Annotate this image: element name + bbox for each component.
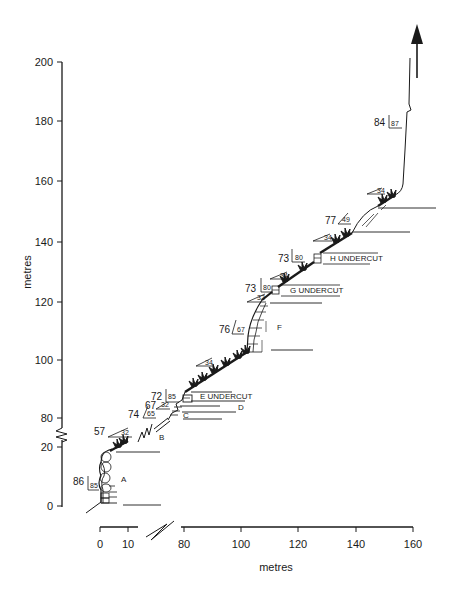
dip-65: 65: [147, 410, 155, 417]
strike-73-g: 73: [245, 283, 257, 294]
unit-label-h: H UNDERCUT: [330, 254, 383, 263]
attitude-symbols: 86 85 57 32 74 65 67 32 72 85 34 76 67 3…: [73, 115, 402, 490]
y-axis-label: metres: [21, 255, 33, 289]
y-tick-100: 100: [35, 354, 53, 366]
x-tick-120: 120: [289, 538, 307, 550]
dip-49: 49: [342, 216, 350, 223]
dip-87: 87: [391, 120, 399, 127]
vegetation-tuft-icon: [378, 194, 387, 203]
vegetation-tuft-icon: [241, 345, 250, 354]
dip-34-c: 34: [324, 234, 332, 241]
vegetation-tuft-icon: [387, 189, 396, 198]
x-tick-0: 0: [97, 538, 103, 550]
up-arrow-icon: [411, 24, 423, 78]
y-tick-180: 180: [35, 115, 53, 127]
y-axis: 200 180 160 140 120 100 80 20 0 metres: [21, 56, 67, 512]
unit-label-a: A: [121, 475, 127, 484]
unit-label-b: B: [159, 433, 164, 442]
x-tick-160: 160: [404, 538, 422, 550]
strike-73-h: 73: [278, 253, 290, 264]
y-tick-0: 0: [47, 500, 53, 512]
dip-34-b: 34: [280, 272, 288, 279]
vegetation-tuft-icon: [233, 350, 242, 359]
dip-32-c: 32: [257, 294, 265, 301]
x-tick-80: 80: [178, 538, 190, 550]
dip-85: 85: [90, 482, 98, 489]
y-tick-120: 120: [35, 296, 53, 308]
axis-break-icon: [56, 428, 67, 442]
dip-80-h: 80: [295, 254, 303, 261]
y-tick-160: 160: [35, 175, 53, 187]
strike-72: 72: [151, 391, 163, 402]
x-axis-label: metres: [259, 561, 293, 573]
y-tick-200: 200: [35, 56, 53, 68]
dip-32: 32: [121, 429, 129, 436]
dip-80-g: 80: [263, 284, 271, 291]
strike-84: 84: [374, 117, 386, 128]
x-tick-10: 10: [122, 538, 134, 550]
unit-label-d: D: [238, 403, 244, 412]
unit-label-c: C: [183, 411, 189, 420]
unit-label-g: G UNDERCUT: [290, 286, 343, 295]
vegetation-tuft-icon: [189, 378, 198, 387]
vegetation-tuft-icon: [298, 262, 307, 271]
vegetation-tuft-icon: [221, 357, 230, 366]
y-tick-20: 20: [41, 441, 53, 453]
unit-label-e: E UNDERCUT: [200, 392, 253, 401]
unit-label-f: F: [277, 323, 282, 332]
x-tick-100: 100: [232, 538, 250, 550]
cross-section-diagram: 200 180 160 140 120 100 80 20 0 metres 0…: [0, 0, 458, 591]
axis-break-icon: [146, 521, 174, 540]
y-tick-140: 140: [35, 236, 53, 248]
vegetation-tuft-icon: [331, 234, 340, 243]
dip-34-a: 34: [205, 359, 213, 366]
vegetation-tuft-icon: [198, 372, 207, 381]
dip-34-d: 34: [377, 187, 385, 194]
strike-76: 76: [219, 324, 231, 335]
vegetation-tuft-icon: [341, 228, 350, 237]
x-tick-140: 140: [347, 538, 365, 550]
y-tick-80: 80: [41, 412, 53, 424]
strike-86: 86: [73, 476, 85, 487]
dip-85-b: 85: [168, 393, 176, 400]
x-axis: 0 10 80 100 120 140 160 metres: [97, 521, 422, 573]
strike-77: 77: [325, 215, 337, 226]
strike-74: 74: [128, 409, 140, 420]
strike-57: 57: [94, 426, 106, 437]
dip-67: 67: [237, 326, 245, 333]
